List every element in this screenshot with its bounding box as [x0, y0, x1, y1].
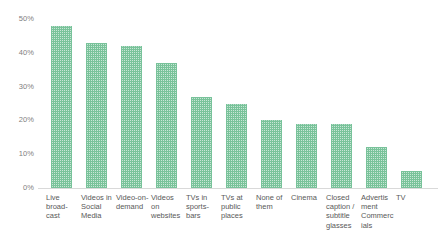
bar-slot [359, 0, 394, 188]
y-tick-label: 0% [0, 184, 34, 192]
y-tick-label: 30% [0, 83, 34, 91]
x-category-label: TVs in sports-bars [184, 193, 219, 221]
bar-chart: 0%10%20%30%40%50% Live broad-castVideos … [0, 0, 444, 246]
bar-slot [219, 0, 254, 188]
x-category-label: Videos in Social Media [79, 193, 114, 221]
bar[interactable] [156, 63, 177, 188]
y-tick-label: 50% [0, 15, 34, 23]
x-axis-line [38, 188, 438, 189]
bar-slot [324, 0, 359, 188]
bar[interactable] [51, 26, 72, 188]
bar-slot [44, 0, 79, 188]
x-category-label: Cinema [289, 193, 324, 202]
y-tick-label: 20% [0, 116, 34, 124]
y-tick-label: 10% [0, 150, 34, 158]
bar-slot [184, 0, 219, 188]
x-axis-labels: Live broad-castVideos in Social MediaVid… [38, 193, 438, 246]
x-category-label: Video-on-demand [114, 193, 149, 211]
bars-layer [38, 0, 438, 188]
x-category-label: TV [394, 193, 429, 202]
bar[interactable] [121, 46, 142, 188]
y-axis: 0%10%20%30%40%50% [0, 0, 34, 246]
bar-slot [254, 0, 289, 188]
bar[interactable] [366, 147, 387, 188]
x-category-label: Advertisment Commercials [359, 193, 394, 230]
bar[interactable] [261, 120, 282, 188]
x-category-label: Videos on websites [149, 193, 184, 221]
x-category-label: Live broad-cast [44, 193, 79, 221]
bar-slot [394, 0, 429, 188]
bar[interactable] [331, 124, 352, 188]
x-category-label: TVs at public places [219, 193, 254, 221]
bar-slot [79, 0, 114, 188]
x-category-label: Closed caption / subtitle glasses [324, 193, 359, 230]
bar[interactable] [401, 171, 422, 188]
bar[interactable] [226, 104, 247, 189]
x-category-label: None of them [254, 193, 289, 211]
bar-slot [114, 0, 149, 188]
bar-slot [289, 0, 324, 188]
bar-slot [149, 0, 184, 188]
bar[interactable] [191, 97, 212, 188]
y-tick-label: 40% [0, 49, 34, 57]
bar[interactable] [296, 124, 317, 188]
bar[interactable] [86, 43, 107, 188]
